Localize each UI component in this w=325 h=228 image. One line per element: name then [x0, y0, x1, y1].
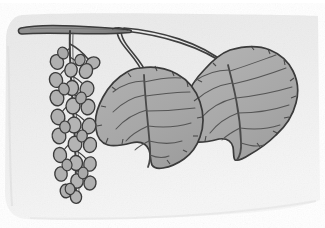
botanical-illustration [0, 0, 325, 228]
illustration-canvas: Grayscale botanical drawing of an aspen … [0, 0, 325, 228]
